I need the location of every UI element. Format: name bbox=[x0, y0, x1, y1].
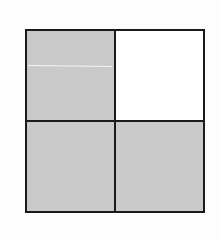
cell-bottom-right bbox=[115, 121, 203, 211]
cell-top-right bbox=[115, 31, 203, 121]
fraction-square bbox=[25, 29, 205, 213]
cell-bottom-left bbox=[27, 121, 115, 211]
diagram-canvas bbox=[0, 0, 219, 239]
cell-top-left bbox=[27, 31, 115, 121]
